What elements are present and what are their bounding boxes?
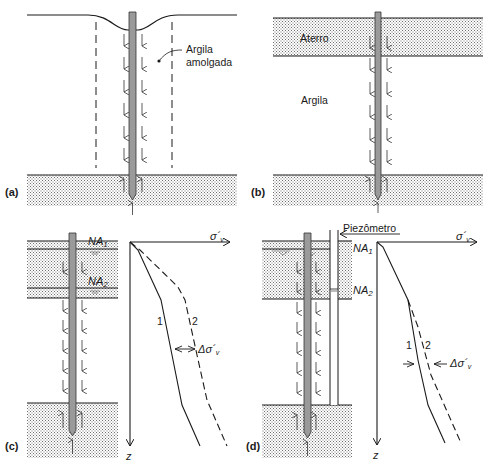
panel-b: Aterro Argila (b) — [251, 12, 483, 213]
sigma-v-label: σ´v — [210, 230, 224, 243]
panel-d: Piezômetro NA1 NA2 (d) σ´v z 1 2 Δσ´v — [246, 222, 477, 461]
aterro-label: Aterro — [300, 32, 329, 44]
amolgada-label: amolgada — [186, 56, 232, 68]
panel-label-b: (b) — [251, 186, 265, 198]
sigma-v-label: σ´v — [456, 230, 470, 243]
curve-2-label: 2 — [192, 315, 198, 327]
pile — [129, 12, 136, 200]
water-level-na1: NA1 — [88, 235, 108, 249]
delta-sigma-label: Δσ´v — [197, 343, 220, 356]
z-label: z — [125, 450, 132, 461]
argila-label: Argila — [301, 94, 328, 106]
water-level-na2: NA2 — [353, 284, 373, 298]
argila-label: Argila — [186, 43, 213, 55]
curve-2-label: 2 — [425, 339, 431, 351]
z-label: z — [372, 449, 379, 461]
curve-1-label: 1 — [157, 315, 163, 327]
pile — [304, 233, 311, 438]
panel-c: NA1 NA2 (c) σ´v z 1 2 Δσ´v — [5, 230, 230, 461]
curve-1-label: 1 — [406, 339, 412, 351]
negative-skin-friction-figure: Argila amolgada (a) Aterro Argila (b) — [0, 0, 485, 461]
panel-label-a: (a) — [5, 186, 19, 198]
delta-sigma-label: Δσ´v — [449, 357, 472, 370]
curve-1 — [130, 242, 200, 446]
water-level-na1: NA1 — [353, 242, 373, 256]
panel-label-c: (c) — [5, 440, 19, 452]
pile — [69, 233, 76, 436]
curve-2 — [408, 300, 461, 443]
pile — [375, 12, 381, 200]
panel-label-d: (d) — [246, 440, 260, 452]
panel-a: Argila amolgada (a) — [5, 12, 237, 215]
piezometer-label: Piezômetro — [343, 222, 396, 234]
